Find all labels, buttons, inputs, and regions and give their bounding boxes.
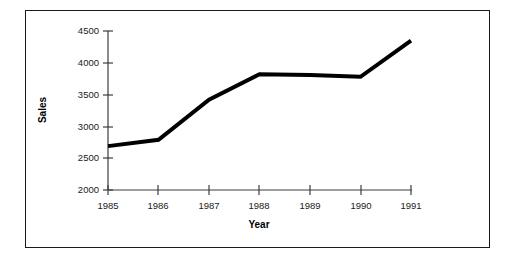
y-tick-label-3500: 3500 <box>78 89 99 100</box>
y-tick-label-2500: 2500 <box>78 152 99 163</box>
line-chart: 4500 4000 3500 3000 2500 2000 1985 1986 … <box>0 0 515 258</box>
x-tick-label-1988: 1988 <box>248 200 269 211</box>
y-tick-label-4500: 4500 <box>78 25 99 36</box>
x-tick-label-1991: 1991 <box>400 200 421 211</box>
data-line-sales <box>108 41 411 147</box>
chart-screenshot: 4500 4000 3500 3000 2500 2000 1985 1986 … <box>0 0 515 258</box>
y-tick-label-3000: 3000 <box>78 121 99 132</box>
y-axis-title: Sales <box>37 96 48 123</box>
x-tick-label-1986: 1986 <box>147 200 168 211</box>
y-tick-label-4000: 4000 <box>78 57 99 68</box>
x-axis-title: Year <box>248 219 269 230</box>
x-tick-label-1987: 1987 <box>198 200 219 211</box>
y-tick-label-2000: 2000 <box>78 184 99 195</box>
x-tick-label-1990: 1990 <box>350 200 371 211</box>
x-tick-label-1989: 1989 <box>299 200 320 211</box>
x-tick-label-1985: 1985 <box>97 200 118 211</box>
